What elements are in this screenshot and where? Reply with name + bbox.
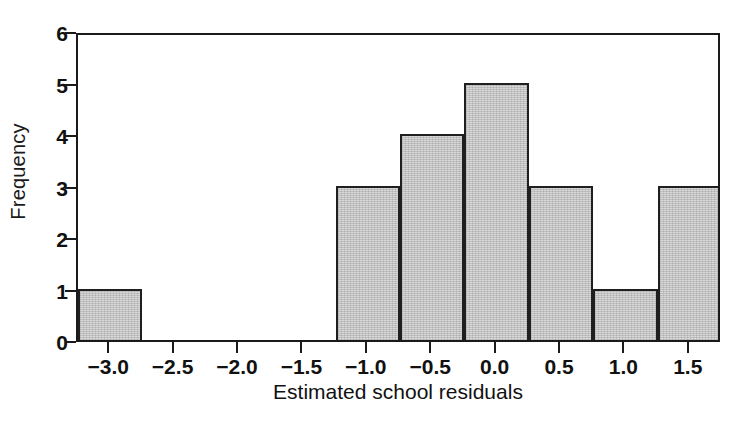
x-axis-ticks: −3.0−2.5−2.0−1.5−1.0−0.50.00.51.01.5	[76, 342, 720, 354]
x-axis-tick-mark	[558, 342, 560, 353]
histogram-bar	[336, 186, 400, 341]
x-axis-title: Estimated school residuals	[76, 380, 720, 404]
x-axis-tick-label: −0.5	[409, 356, 450, 377]
histogram-bar	[529, 186, 593, 341]
y-axis-tick-mark	[65, 135, 76, 137]
histogram-figure: Frequency 0123456 −3.0−2.5−2.0−1.5−1.0−0…	[0, 0, 756, 421]
x-axis-tick-label: 1.0	[609, 356, 638, 377]
histogram-bar	[658, 186, 720, 341]
x-axis-tick-mark	[365, 342, 367, 353]
x-axis-tick-mark	[107, 342, 109, 353]
y-axis-tick-mark	[65, 187, 76, 189]
x-axis-tick-mark	[429, 342, 431, 353]
y-axis-tick-labels: 0123456	[38, 0, 68, 421]
x-axis-tick-label: −1.5	[281, 356, 322, 377]
x-axis-tick-mark	[300, 342, 302, 353]
y-axis-tick-mark	[65, 238, 76, 240]
histogram-bar	[78, 289, 142, 341]
x-axis-tick-mark	[687, 342, 689, 353]
histogram-bars	[78, 35, 718, 340]
x-axis-tick-label: −1.0	[345, 356, 386, 377]
plot-area	[76, 33, 720, 342]
x-axis-tick-mark	[622, 342, 624, 353]
x-axis-tick-label: 0.0	[480, 356, 509, 377]
x-axis-tick-label: 0.5	[544, 356, 573, 377]
y-axis-tick-mark	[65, 84, 76, 86]
x-axis-tick-label: −2.0	[216, 356, 257, 377]
y-axis-title-text: Frequency	[7, 123, 30, 219]
x-axis-tick-label: −2.5	[152, 356, 193, 377]
histogram-bar	[400, 134, 464, 340]
x-axis-tick-mark	[494, 342, 496, 353]
x-axis-tick-mark	[172, 342, 174, 353]
x-axis-tick-mark	[236, 342, 238, 353]
y-axis-tick-mark	[65, 341, 76, 343]
x-axis-tick-label: 1.5	[673, 356, 702, 377]
histogram-bar	[464, 83, 528, 341]
y-axis-title: Frequency	[0, 0, 36, 342]
y-axis-tick-mark	[65, 290, 76, 292]
histogram-bar	[593, 289, 657, 341]
y-axis-tick-mark	[65, 32, 76, 34]
x-axis-tick-label: −3.0	[87, 356, 128, 377]
